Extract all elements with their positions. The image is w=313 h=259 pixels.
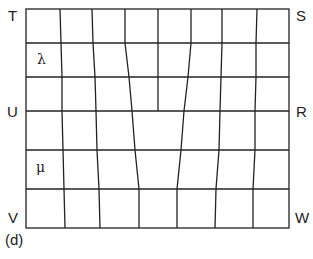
corner-label-t: T	[8, 8, 17, 23]
corner-label-s: S	[296, 8, 306, 23]
panel-label: (d)	[5, 232, 23, 247]
grid-vline	[60, 9, 65, 228]
corner-label-v: V	[8, 210, 18, 225]
corner-label-w: W	[295, 210, 309, 225]
grid-vline	[215, 9, 222, 228]
region-label-lambda: λ	[37, 52, 46, 66]
corner-label-r: R	[296, 104, 307, 119]
corner-label-u: U	[7, 104, 18, 119]
grid-vline	[125, 9, 139, 228]
deformed-grid	[0, 0, 313, 259]
grid-vline	[177, 9, 191, 228]
grid-vline	[92, 9, 100, 228]
grid-vline	[253, 9, 257, 228]
region-label-mu: μ	[36, 160, 45, 174]
